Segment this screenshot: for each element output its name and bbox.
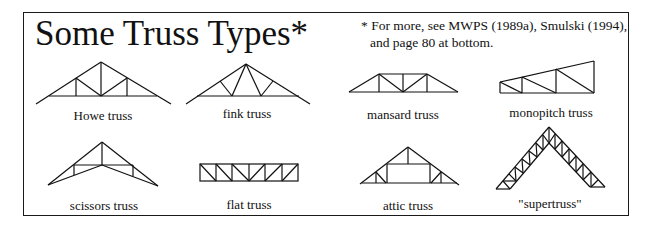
monopitch-truss-label: monopitch truss (509, 105, 592, 120)
mansard-truss-drawing (349, 74, 458, 92)
fink-truss-label: fink truss (223, 106, 272, 121)
attic-truss-label: attic truss (383, 198, 433, 213)
scissors-truss-drawing (48, 142, 158, 186)
supertruss-drawing (496, 127, 605, 189)
supertruss-label: "supertruss" (518, 196, 581, 211)
monopitch-truss-drawing (500, 61, 594, 93)
fink-truss-drawing (186, 64, 310, 104)
scissors-truss-label: scissors truss (70, 198, 138, 213)
howe-truss-drawing (36, 62, 171, 104)
attic-truss-drawing (360, 147, 459, 185)
howe-truss-label: Howe truss (74, 108, 133, 123)
mansard-truss-label: mansard truss (367, 107, 439, 122)
flat-truss-label: flat truss (226, 197, 271, 212)
flat-truss-drawing (200, 164, 298, 181)
